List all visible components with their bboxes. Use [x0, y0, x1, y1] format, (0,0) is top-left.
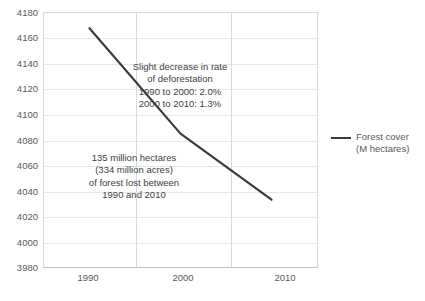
- forest-cover-line-chart: 4180 4160 4140 4120 4100 4080 4060 4040 …: [0, 0, 425, 301]
- annotation-line: 135 million hectares: [89, 152, 179, 164]
- legend-color-swatch: [331, 137, 351, 139]
- annotation-line: of forest lost between: [89, 177, 179, 189]
- y-axis-tick-labels: 4180 4160 4140 4120 4100 4080 4060 4040 …: [0, 0, 38, 301]
- y-axis-tick-label: 4040: [0, 187, 38, 197]
- annotation-line: (334 million acres): [89, 164, 179, 176]
- chart-legend: Forest cover (M hectares): [331, 131, 409, 156]
- y-axis-tick-label: 4160: [0, 33, 38, 43]
- x-axis-tick-label: 2000: [172, 272, 193, 284]
- annotation-forest-loss: 135 million hectares (334 million acres)…: [89, 152, 179, 202]
- annotation-line: of deforestation: [133, 73, 228, 85]
- legend-entry-label: Forest cover (M hectares): [356, 131, 409, 156]
- y-axis-tick-label: 4180: [0, 8, 38, 18]
- annotation-line: 1990 and 2010: [89, 189, 179, 201]
- annotation-line: 2000 to 2010: 1.3%: [133, 98, 228, 110]
- y-axis-tick-label: 4020: [0, 212, 38, 222]
- plot-area: Slight decrease in rate of deforestation…: [43, 12, 318, 268]
- legend-label-line: Forest cover: [356, 131, 409, 143]
- annotation-deforestation-rate: Slight decrease in rate of deforestation…: [133, 61, 228, 111]
- y-axis-tick-label: 4120: [0, 84, 38, 94]
- x-axis-tick-label: 1990: [77, 272, 98, 284]
- y-axis-tick-label: 4000: [0, 238, 38, 248]
- x-axis-tick-labels: 1990 2000 2010: [0, 272, 425, 288]
- series-forest-cover: [44, 13, 317, 267]
- legend-label-line: (M hectares): [356, 143, 409, 155]
- y-axis-tick-label: 4100: [0, 110, 38, 120]
- y-axis-tick-label: 4140: [0, 59, 38, 69]
- annotation-line: 1990 to 2000: 2.0%: [133, 86, 228, 98]
- y-axis-tick-label: 4080: [0, 136, 38, 146]
- annotation-line: Slight decrease in rate: [133, 61, 228, 73]
- y-axis-tick-label: 4060: [0, 161, 38, 171]
- x-axis-tick-label: 2010: [274, 272, 295, 284]
